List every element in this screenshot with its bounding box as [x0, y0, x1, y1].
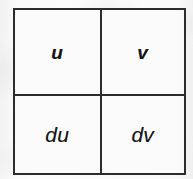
cell-label-dv: dv	[131, 124, 154, 145]
two-by-two-grid: u v du dv	[13, 8, 186, 175]
cell-label-du: du	[45, 124, 69, 145]
grid-row-top: u v	[15, 10, 184, 94]
cell-label-v: v	[137, 43, 148, 62]
grid-cell-v: v	[100, 10, 185, 94]
grid-cell-u: u	[15, 10, 100, 94]
scanned-figure-page: u v du dv	[0, 0, 193, 179]
grid-cell-dv: dv	[100, 96, 185, 173]
cell-label-u: u	[51, 43, 63, 62]
grid-row-bottom: du dv	[15, 94, 184, 173]
grid-cell-du: du	[15, 96, 100, 173]
